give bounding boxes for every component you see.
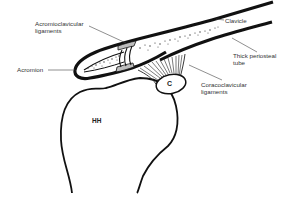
leader-periosteal [232,38,257,52]
label-periosteal-line1: Thick periosteal [233,52,276,59]
label-acromioclavicular-ligaments: Acromioclavicular ligaments [35,20,83,34]
label-clavicle: Clavicle [225,17,247,24]
humeral-head-outline [61,78,178,193]
label-acromion: Acromion [17,66,43,73]
label-acromioclavicular-line2: ligaments [35,27,83,34]
label-coracoid: C [167,80,172,87]
leader-coracoclavicular [189,65,222,80]
acromion-trabecular-pattern [87,55,119,68]
label-acromioclavicular-line1: Acromioclavicular [35,20,83,27]
label-periosteal-line2: tube [233,59,276,66]
label-humeral-head: HH [92,117,101,124]
label-coracoclavicular-line2: ligaments [201,88,247,95]
leader-acromioclavicular [89,26,126,43]
label-coracoclavicular-ligaments: Coracoclavicular ligaments [201,81,247,95]
label-thick-periosteal-tube: Thick periosteal tube [233,52,276,66]
label-coracoclavicular-line1: Coracoclavicular [201,81,247,88]
